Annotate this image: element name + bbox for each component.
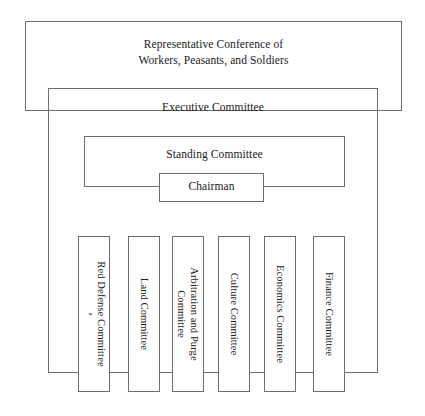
committee-box-culture: Culture Committee (218, 236, 250, 392)
committee-label-line1: Culture Committee (228, 273, 241, 355)
organizational-chart: Representative Conference of Workers, Pe… (0, 0, 425, 416)
committee-box-arbitration-and-purge: Arbitration and Purge Committee (172, 236, 204, 392)
conference-label-line2: Workers, Peasants, and Soldiers (25, 52, 402, 68)
committee-label-economics: Economics Committee (274, 265, 287, 363)
committee-label-land: Land Committee (138, 278, 151, 350)
committee-label-line1: Red Defense Committee (94, 261, 107, 366)
footnote-marker: a (88, 312, 96, 315)
committee-label-culture: Culture Committee (228, 273, 241, 355)
standing-committee-label: Standing Committee (84, 148, 345, 160)
committee-label-line2: Committee (175, 267, 188, 360)
committee-label-red-defense: Red Defense Committeea (82, 261, 107, 366)
committee-box-economics: Economics Committee (264, 236, 296, 392)
committee-box-finance: Finance Committee (313, 236, 345, 392)
committee-label-line1: Land Committee (138, 278, 151, 350)
committee-label-finance: Finance Committee (323, 272, 336, 356)
committee-label-arbitration-and-purge: Arbitration and Purge Committee (175, 267, 201, 360)
executive-committee-label: Executive Committee (48, 101, 378, 113)
conference-label: Representative Conference of Workers, Pe… (25, 36, 402, 68)
committee-label-line1: Arbitration and Purge (188, 267, 201, 360)
committee-label-line1: Finance Committee (323, 272, 336, 356)
committee-label-line1: Economics Committee (274, 265, 287, 363)
chairman-label: Chairman (159, 180, 264, 192)
conference-label-line1: Representative Conference of (144, 38, 283, 50)
committee-box-red-defense: Red Defense Committeea (78, 236, 110, 392)
committee-box-land: Land Committee (128, 236, 160, 392)
